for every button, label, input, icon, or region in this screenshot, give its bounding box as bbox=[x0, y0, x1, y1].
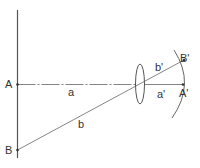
label-b-prime: b' bbox=[155, 61, 163, 73]
label-A: A bbox=[5, 78, 13, 90]
label-A-prime: A' bbox=[179, 87, 188, 99]
label-b: b bbox=[78, 118, 84, 130]
point-b bbox=[16, 149, 19, 152]
label-a: a bbox=[68, 86, 75, 98]
label-B: B bbox=[5, 144, 12, 156]
ray-b bbox=[18, 60, 185, 150]
point-a-prime bbox=[182, 83, 185, 86]
point-a bbox=[16, 83, 19, 86]
lens-diagram: A B a b b' a' B' A' bbox=[0, 0, 200, 168]
label-B-prime: B' bbox=[180, 52, 189, 64]
label-a-prime: a' bbox=[157, 88, 165, 100]
